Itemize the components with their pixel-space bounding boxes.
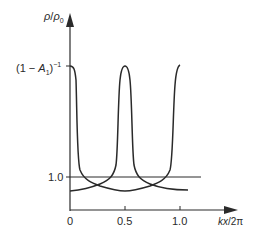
x-tick-label-1.0: 1.0 xyxy=(172,216,187,227)
y-tick-label-1.0: 1.0 xyxy=(48,172,63,183)
x-axis-label-rest: /2π xyxy=(228,216,243,227)
x-axis-arrow-icon xyxy=(224,206,238,214)
curve-peak-0.5 xyxy=(70,66,188,191)
y-peak-label: (1 − A1)−1 xyxy=(16,61,61,76)
y-peak-a: A xyxy=(38,62,45,74)
y-peak-open: (1 − xyxy=(16,62,38,74)
x-tick-label-0: 0 xyxy=(67,216,73,227)
curve-peaks-0-1 xyxy=(70,65,180,191)
y-axis-label: ρ/ρ0 xyxy=(44,11,64,24)
x-axis-label-kx: kx xyxy=(218,216,228,227)
plot-area xyxy=(0,0,257,237)
x-tick-label-0.5: 0.5 xyxy=(117,216,132,227)
y-peak-sup: −1 xyxy=(53,61,61,68)
x-axis-label: kx/2π xyxy=(218,217,243,227)
y-axis-arrow-icon xyxy=(66,13,74,27)
y-axis-label-sub: 0 xyxy=(60,17,64,24)
